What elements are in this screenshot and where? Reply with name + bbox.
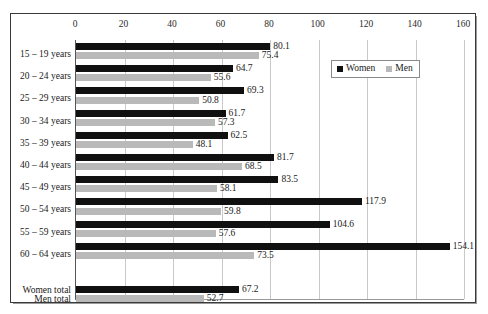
category-label: 20 – 24 years: [20, 71, 71, 82]
chart-frame: 020406080100120140160 15 – 19 years20 – …: [10, 13, 476, 303]
bar-total-men: [76, 295, 204, 302]
bar-value-label: 57.6: [219, 229, 236, 238]
bar-men: [76, 119, 215, 126]
category-label: 15 – 19 years: [20, 49, 71, 60]
bar-value-label: 48.1: [196, 140, 213, 149]
category-label: 40 – 44 years: [20, 160, 71, 171]
bar-value-label: 62.5: [231, 131, 248, 140]
bar-women: [76, 65, 233, 72]
bar-men: [76, 74, 211, 81]
x-tick-label-40: 40: [167, 19, 177, 30]
bar-women: [76, 198, 362, 205]
bar-men: [76, 185, 217, 192]
legend-swatch-icon: [386, 66, 392, 72]
bar-total-value-label: 52.7: [207, 294, 224, 303]
bar-women: [76, 243, 450, 250]
x-tick-label-80: 80: [264, 19, 274, 30]
x-tick-label-60: 60: [216, 19, 226, 30]
bar-men: [76, 52, 259, 59]
bar-men: [76, 163, 242, 170]
bar-value-label: 117.9: [365, 197, 386, 206]
legend-entry-women: Women: [337, 63, 375, 74]
x-tick-label-160: 160: [456, 19, 470, 30]
bar-value-label: 83.5: [281, 175, 298, 184]
bar-women: [76, 43, 270, 50]
bar-value-label: 58.1: [220, 184, 237, 193]
bar-value-label: 64.7: [236, 64, 253, 73]
bar-value-label: 50.8: [202, 96, 219, 105]
bar-men: [76, 141, 193, 148]
category-axis-labels: 15 – 19 years20 – 24 years25 – 29 years3…: [11, 40, 73, 299]
bar-men: [76, 252, 254, 259]
category-label: 50 – 54 years: [20, 204, 71, 215]
x-tick-label-0: 0: [73, 19, 78, 30]
gridline-120: [367, 40, 368, 299]
bar-total-value-label: 67.2: [242, 285, 259, 294]
gridline-160: [464, 40, 465, 299]
category-label: 60 – 64 years: [20, 249, 71, 260]
bar-value-label: 104.6: [333, 220, 354, 229]
category-label: 45 – 49 years: [20, 182, 71, 193]
bar-value-label: 57.3: [218, 118, 235, 127]
bar-value-label: 73.5: [257, 251, 274, 260]
bar-women: [76, 221, 330, 228]
bar-total-women: [76, 286, 239, 293]
bar-value-label: 69.3: [247, 86, 264, 95]
bar-value-label: 81.7: [277, 153, 294, 162]
bar-women: [76, 87, 244, 94]
legend-label: Men: [395, 63, 412, 74]
total-label: Men total: [34, 294, 71, 305]
bar-women: [76, 132, 228, 139]
chart-legend: WomenMen: [331, 60, 420, 78]
category-label: 55 – 59 years: [20, 227, 71, 238]
x-axis-tick-labels: 020406080100120140160: [11, 19, 475, 35]
bar-women: [76, 110, 226, 117]
bar-men: [76, 208, 221, 215]
legend-label: Women: [346, 63, 375, 74]
bar-value-label: 68.5: [245, 162, 262, 171]
plot-area: 80.175.464.755.669.350.861.757.362.548.1…: [75, 40, 464, 300]
bar-value-label: 55.6: [214, 73, 231, 82]
gridline-80: [270, 40, 271, 299]
x-tick-label-20: 20: [119, 19, 129, 30]
category-label: 25 – 29 years: [20, 93, 71, 104]
legend-entry-men: Men: [386, 63, 412, 74]
bar-women: [76, 154, 274, 161]
bar-men: [76, 97, 199, 104]
x-tick-label-120: 120: [359, 19, 373, 30]
legend-swatch-icon: [337, 66, 343, 72]
gridline-140: [416, 40, 417, 299]
bar-women: [76, 176, 278, 183]
bar-value-label: 154.1: [453, 242, 474, 251]
x-tick-label-140: 140: [407, 19, 421, 30]
gridline-100: [319, 40, 320, 299]
bar-men: [76, 230, 216, 237]
x-tick-label-100: 100: [310, 19, 324, 30]
bar-value-label: 75.4: [262, 51, 279, 60]
bar-value-label: 59.8: [224, 207, 241, 216]
category-label: 35 – 39 years: [20, 138, 71, 149]
category-label: 30 – 34 years: [20, 116, 71, 127]
